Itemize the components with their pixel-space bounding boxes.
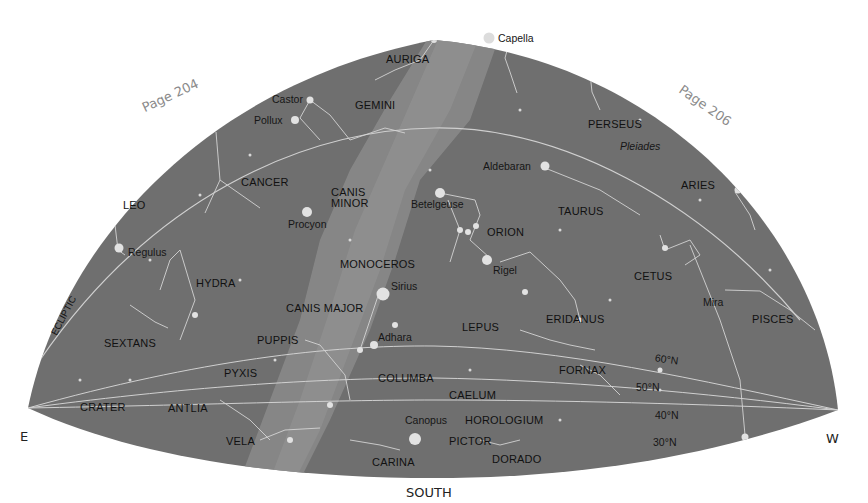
constellation-caelum: CAELUM — [449, 389, 496, 401]
constellation-auriga: AURIGA — [386, 53, 429, 65]
star-label-rigel: Rigel — [493, 264, 517, 276]
constellation-pyxis: PYXIS — [224, 367, 257, 379]
latitude-40n: 40°N — [655, 409, 678, 421]
direction-south: SOUTH — [406, 485, 452, 500]
constellation-dorado: DORADO — [492, 453, 541, 465]
star-label-pollux: Pollux — [254, 114, 283, 126]
constellation-pisces: PISCES — [752, 313, 794, 325]
constellation-sextans: SEXTANS — [104, 337, 156, 349]
direction-east: E — [20, 429, 28, 444]
constellation-carina: CARINA — [372, 456, 415, 468]
capella-star — [484, 33, 495, 44]
star-chart: Page 204 Page 206 Capella Castor Pollux … — [0, 0, 868, 503]
constellation-canis-minor-2: MINOR — [331, 197, 369, 209]
direction-west: W — [826, 431, 839, 446]
star-label-canopus: Canopus — [405, 414, 447, 426]
star-label-adhara: Adhara — [378, 331, 412, 343]
constellation-canis-major: CANIS MAJOR — [286, 302, 363, 314]
constellation-vela: VELA — [226, 435, 255, 447]
star-label-pleiades: Pleiades — [620, 140, 660, 152]
constellation-eridanus: ERIDANUS — [546, 313, 604, 325]
constellation-monoceros: MONOCEROS — [340, 258, 415, 270]
star-label-capella: Capella — [498, 32, 534, 44]
star-label-sirius: Sirius — [391, 280, 417, 292]
constellation-taurus: TAURUS — [558, 205, 604, 217]
constellation-lepus: LEPUS — [462, 321, 499, 333]
latitude-50n: 50°N — [636, 381, 659, 393]
star-label-mira: Mira — [703, 296, 723, 308]
constellation-antlia: ANTLIA — [168, 402, 208, 414]
constellation-puppis: PUPPIS — [257, 334, 299, 346]
constellation-gemini: GEMINI — [355, 99, 395, 111]
star-label-regulus: Regulus — [128, 246, 167, 258]
constellation-perseus: PERSEUS — [588, 118, 642, 130]
star-label-betelgeuse: Betelgeuse — [411, 198, 464, 210]
star-label-castor: Castor — [272, 93, 303, 105]
constellation-cetus: CETUS — [634, 270, 672, 282]
star-label-aldebaran: Aldebaran — [483, 160, 531, 172]
constellation-cancer: CANCER — [241, 176, 289, 188]
constellation-crater: CRATER — [80, 401, 126, 413]
constellation-columba: COLUMBA — [378, 372, 434, 384]
constellation-pictor: PICTOR — [449, 435, 492, 447]
constellation-hydra: HYDRA — [196, 277, 236, 289]
star-label-procyon: Procyon — [288, 218, 327, 230]
constellation-orion: ORION — [487, 226, 524, 238]
latitude-30n: 30°N — [653, 436, 676, 448]
constellation-leo: LEO — [123, 199, 146, 211]
constellation-fornax: FORNAX — [559, 364, 606, 376]
constellation-aries: ARIES — [681, 179, 715, 191]
constellation-horologium: HOROLOGIUM — [465, 414, 543, 426]
